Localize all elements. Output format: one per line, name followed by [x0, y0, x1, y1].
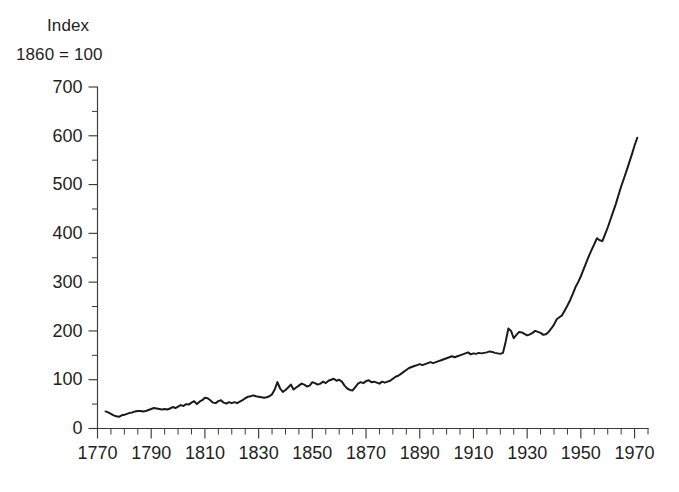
y-tick-label: 200: [52, 321, 82, 341]
x-tick-label: 1970: [615, 443, 655, 463]
y-tick-label: 500: [52, 174, 82, 194]
chart-figure: Index 1860 = 100 0100200300400500600700 …: [0, 0, 679, 492]
x-tick-label: 1890: [400, 443, 440, 463]
y-tick-label: 0: [72, 418, 82, 438]
series-path: [106, 138, 638, 417]
x-tick-label: 1950: [561, 443, 601, 463]
y-tick-label: 300: [52, 272, 82, 292]
x-tick-label: 1770: [77, 443, 117, 463]
plot-area: 0100200300400500600700 17701790181018301…: [0, 0, 679, 492]
y-axis: 0100200300400500600700: [52, 77, 97, 439]
x-tick-label: 1830: [239, 443, 279, 463]
y-tick-label: 700: [52, 77, 82, 97]
y-tick-label: 600: [52, 126, 82, 146]
x-axis: 1770179018101830185018701890191019301950…: [77, 429, 654, 464]
y-tick-label: 100: [52, 369, 82, 389]
chart-subtitle: 1860 = 100: [16, 45, 103, 65]
data-series: [106, 138, 638, 417]
x-tick-label: 1870: [346, 443, 386, 463]
x-tick-label: 1790: [131, 443, 171, 463]
x-tick-label: 1910: [453, 443, 493, 463]
x-tick-label: 1850: [292, 443, 332, 463]
y-tick-label: 400: [52, 223, 82, 243]
x-tick-label: 1930: [507, 443, 547, 463]
chart-title: Index: [47, 16, 89, 36]
x-tick-label: 1810: [185, 443, 225, 463]
